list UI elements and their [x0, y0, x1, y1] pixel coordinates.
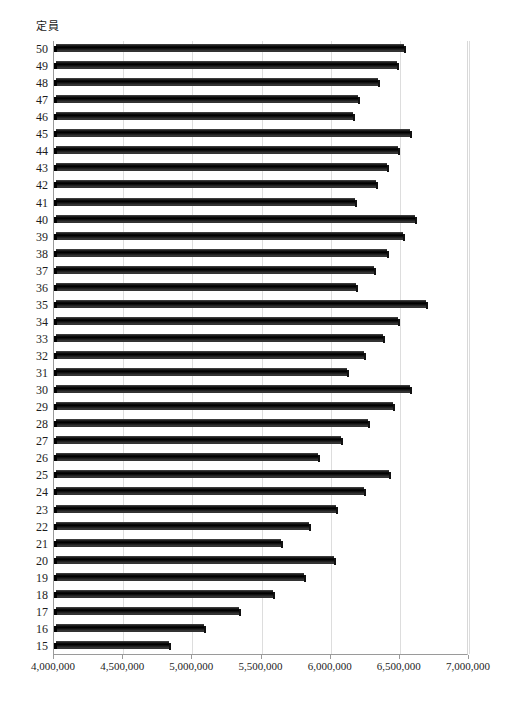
x-axis-labels: 4,000,0004,500,0005,000,0005,500,0006,00…	[0, 660, 520, 682]
bar-chart: 定員 5049484746454443424140393837363534333…	[0, 0, 520, 705]
y-axis-tick-label: 32	[10, 350, 48, 362]
y-axis-tick-label: 36	[10, 282, 48, 294]
y-axis-tick-label: 25	[10, 469, 48, 481]
y-axis-tick-label: 44	[10, 145, 48, 157]
y-axis-tick-label: 39	[10, 231, 48, 243]
y-axis-tick-label: 38	[10, 248, 48, 260]
y-axis-tick-label: 19	[10, 572, 48, 584]
x-axis-tick	[53, 655, 54, 659]
y-axis-tick-label: 37	[10, 265, 48, 277]
y-axis-tick-label: 49	[10, 60, 48, 72]
y-axis-tick-label: 29	[10, 401, 48, 413]
y-axis-tick-label: 21	[10, 538, 48, 550]
y-axis-tick-label: 18	[10, 589, 48, 601]
x-axis-tick	[468, 655, 469, 659]
y-axis-tick-label: 20	[10, 555, 48, 567]
y-axis-labels: 5049484746454443424140393837363534333231…	[0, 41, 520, 655]
y-axis-tick-label: 40	[10, 214, 48, 226]
y-axis-tick-label: 48	[10, 77, 48, 89]
y-axis-tick-label: 27	[10, 435, 48, 447]
y-axis-tick-label: 35	[10, 299, 48, 311]
y-axis-tick-label: 15	[10, 640, 48, 652]
x-axis-tick-label: 4,000,000	[31, 660, 75, 672]
x-axis-tick-label: 4,500,000	[100, 660, 144, 672]
x-axis-tick-label: 6,500,000	[377, 660, 421, 672]
y-axis-tick-label: 43	[10, 162, 48, 174]
y-axis-tick-label: 16	[10, 623, 48, 635]
y-axis-tick-label: 42	[10, 179, 48, 191]
y-axis-tick-label: 23	[10, 504, 48, 516]
y-axis-tick-label: 26	[10, 452, 48, 464]
y-axis-tick-label: 30	[10, 384, 48, 396]
y-axis-tick-label: 22	[10, 521, 48, 533]
y-axis-tick-label: 50	[10, 43, 48, 55]
x-axis-tick	[122, 655, 123, 659]
y-axis-tick-label: 47	[10, 94, 48, 106]
y-axis-tick-label: 45	[10, 128, 48, 140]
y-axis-tick-label: 46	[10, 111, 48, 123]
x-axis-tick-label: 5,500,000	[239, 660, 283, 672]
y-axis-tick-label: 41	[10, 197, 48, 209]
x-axis-tick-label: 5,000,000	[169, 660, 213, 672]
x-axis-tick	[261, 655, 262, 659]
x-axis-tick-label: 6,000,000	[308, 660, 352, 672]
x-axis-tick	[399, 655, 400, 659]
chart-axis-title: 定員	[36, 17, 60, 33]
x-axis-tick	[330, 655, 331, 659]
y-axis-tick-label: 31	[10, 367, 48, 379]
y-axis-tick-label: 33	[10, 333, 48, 345]
y-axis-tick-label: 24	[10, 486, 48, 498]
y-axis-tick-label: 28	[10, 418, 48, 430]
x-axis-tick-label: 7,000,000	[446, 660, 490, 672]
y-axis-tick-label: 17	[10, 606, 48, 618]
y-axis-tick-label: 34	[10, 316, 48, 328]
x-axis-tick	[191, 655, 192, 659]
